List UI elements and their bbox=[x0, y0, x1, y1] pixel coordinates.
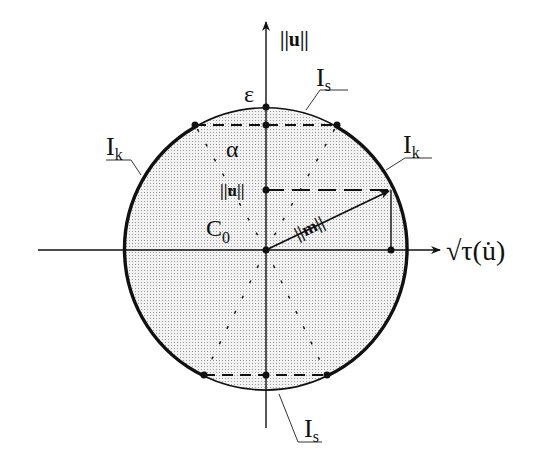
u-norm-label: ||u|| bbox=[220, 181, 244, 200]
is-top-label: Is bbox=[316, 63, 331, 94]
ik-right-label: Ik bbox=[403, 130, 420, 161]
diagram-canvas: ||u|| √τ(u̇) ε α ||u|| C0 ||m|| Is Ik Ik… bbox=[0, 0, 553, 470]
epsilon-label: ε bbox=[244, 81, 254, 107]
alpha-label: α bbox=[226, 136, 239, 162]
ik-left-label: Ik bbox=[106, 132, 123, 163]
is-bottom-label: Is bbox=[304, 414, 319, 445]
horizontal-axis-label: √τ(u̇) bbox=[446, 235, 505, 266]
vertical-axis-label: ||u|| bbox=[280, 28, 309, 51]
